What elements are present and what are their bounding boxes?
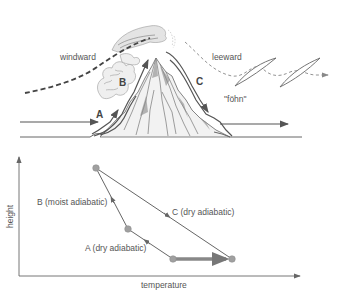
y-axis-label: height: [6, 205, 15, 228]
segment-b-label: B (moist adiabatic): [37, 198, 107, 207]
point-start: [170, 256, 177, 263]
segment-a-label: A (dry adiabatic): [85, 244, 146, 253]
segment-a-arrow: [146, 241, 150, 244]
x-axis-label: temperature: [141, 281, 187, 290]
height-temperature-graph: [0, 0, 343, 299]
axes: [19, 157, 300, 276]
point-summit: [93, 165, 100, 172]
point-condensation: [125, 226, 132, 233]
point-end: [229, 256, 236, 263]
segment-c-label: C (dry adiabatic): [172, 208, 234, 217]
